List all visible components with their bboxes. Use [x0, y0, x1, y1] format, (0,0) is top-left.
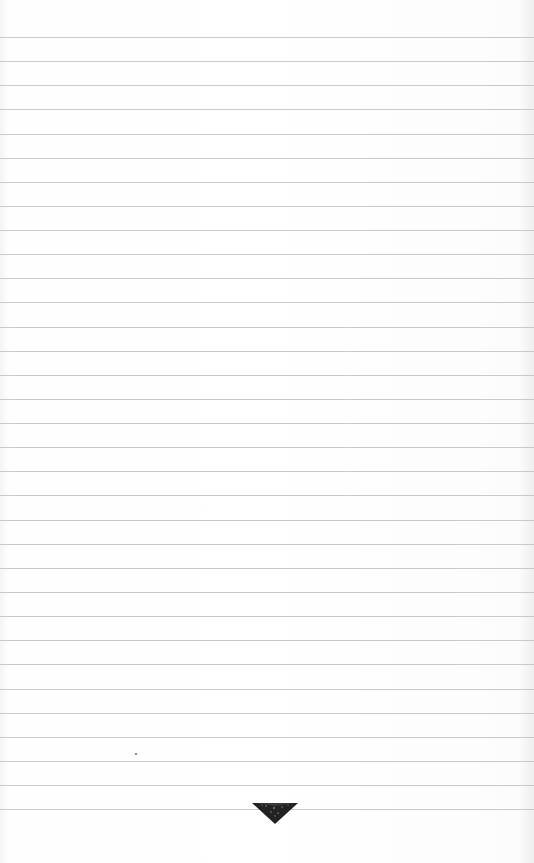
ruled-line — [0, 689, 534, 690]
ruled-line — [0, 134, 534, 135]
ruled-line — [0, 351, 534, 352]
ruled-line — [0, 423, 534, 424]
ruled-line — [0, 616, 534, 617]
ruled-line — [0, 375, 534, 376]
ruled-line — [0, 568, 534, 569]
ruled-line — [0, 544, 534, 545]
ruled-line — [0, 230, 534, 231]
ruled-line — [0, 61, 534, 62]
ruled-line — [0, 206, 534, 207]
ruled-line — [0, 495, 534, 496]
ruled-line — [0, 37, 534, 38]
ruled-line — [0, 785, 534, 786]
ruled-line — [0, 664, 534, 665]
ruled-line — [0, 85, 534, 86]
ruled-line — [0, 158, 534, 159]
triangle-ornament-icon — [252, 802, 298, 824]
ruled-line — [0, 182, 534, 183]
ruled-line — [0, 761, 534, 762]
ruled-line — [0, 278, 534, 279]
ruled-line — [0, 471, 534, 472]
ruled-line — [0, 713, 534, 714]
ruled-line — [0, 254, 534, 255]
ink-dot — [135, 753, 137, 755]
ruled-line — [0, 399, 534, 400]
ruled-line — [0, 109, 534, 110]
ruled-line — [0, 327, 534, 328]
ruled-line — [0, 640, 534, 641]
ruled-line — [0, 737, 534, 738]
notebook-page — [0, 0, 534, 863]
ruled-line — [0, 592, 534, 593]
ruled-line — [0, 302, 534, 303]
bleed-through-text — [0, 2, 534, 32]
ruled-line — [0, 447, 534, 448]
ruled-line — [0, 520, 534, 521]
